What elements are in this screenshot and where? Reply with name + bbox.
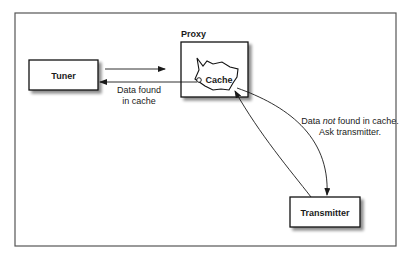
tuner-label: Tuner bbox=[51, 71, 76, 81]
cache-label: Cache bbox=[205, 75, 232, 85]
label-ask-transmitter: Ask transmitter. bbox=[319, 127, 381, 137]
label-in-cache: in cache bbox=[122, 96, 156, 106]
label-data-found: Data found bbox=[117, 85, 161, 95]
transmitter-label: Transmitter bbox=[300, 208, 350, 218]
tuner-node: Tuner bbox=[29, 60, 98, 90]
transmitter-node: Transmitter bbox=[290, 197, 360, 227]
cache-connector-dot bbox=[197, 78, 202, 83]
arrow-cache-to-transmitter bbox=[237, 88, 327, 195]
arrow-transmitter-to-cache bbox=[235, 91, 311, 197]
label-data-not-found: Data not found in cache. bbox=[301, 116, 399, 126]
proxy-label: Proxy bbox=[181, 29, 206, 39]
proxy-cache-diagram: Tuner Proxy Cache Transmitter Data found… bbox=[0, 0, 408, 255]
